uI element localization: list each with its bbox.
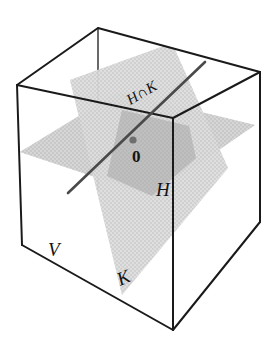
label-space-v: V <box>48 240 60 259</box>
figure-container: H∩K 0 H V K <box>0 0 276 345</box>
subspace-diagram-svg <box>0 0 276 345</box>
origin-point-marker <box>129 136 136 143</box>
label-origin: 0 <box>132 148 141 165</box>
cube-edge-left-vertical <box>17 85 22 245</box>
label-plane-h: H <box>156 180 170 199</box>
